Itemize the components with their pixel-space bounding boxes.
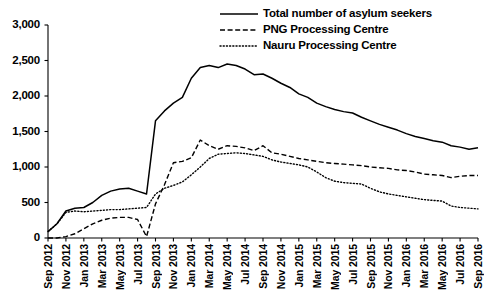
x-axis-label: Mar 2015 bbox=[311, 244, 323, 288]
x-axis-label: May 2015 bbox=[329, 244, 341, 290]
x-axis-label: May 2016 bbox=[436, 244, 448, 290]
chart-series-lines bbox=[48, 64, 478, 238]
x-axis-label: Sep 2013 bbox=[150, 244, 162, 289]
legend-item-label: Nauru Processing Centre bbox=[263, 39, 396, 51]
x-axis-label: Nov 2015 bbox=[382, 244, 394, 289]
y-axis-label: 500 bbox=[0, 197, 40, 208]
x-axis-label: Nov 2014 bbox=[275, 244, 287, 289]
x-axis-label: Sep 2016 bbox=[472, 244, 484, 289]
x-axis-label: Jul 2014 bbox=[239, 244, 251, 285]
y-axis-label: 1,000 bbox=[0, 161, 40, 172]
x-axis-label: Jan 2015 bbox=[293, 244, 305, 288]
x-axis-label: Nov 2013 bbox=[167, 244, 179, 289]
x-axis-label: Jan 2013 bbox=[78, 244, 90, 288]
x-axis-label: Mar 2016 bbox=[418, 244, 430, 288]
series-line-dashed bbox=[48, 140, 478, 238]
x-axis-label: Sep 2014 bbox=[257, 244, 269, 289]
y-axis-label: 2,500 bbox=[0, 55, 40, 66]
x-axis-label: Jul 2015 bbox=[347, 244, 359, 285]
y-axis-label: 1,500 bbox=[0, 126, 40, 137]
y-axis-label: 0 bbox=[0, 232, 40, 243]
x-axis-label: Mar 2014 bbox=[203, 244, 215, 288]
x-axis-label: Mar 2013 bbox=[96, 244, 108, 288]
y-axis-label: 2,000 bbox=[0, 90, 40, 101]
x-axis-label: Nov 2012 bbox=[60, 244, 72, 289]
x-axis-label: Sep 2012 bbox=[42, 244, 54, 289]
series-line-dotted bbox=[48, 153, 478, 232]
series-line-solid bbox=[48, 64, 478, 232]
x-axis-label: May 2013 bbox=[114, 244, 126, 290]
x-axis-label: Jul 2013 bbox=[132, 244, 144, 285]
legend-item-label: Total number of asylum seekers bbox=[263, 7, 432, 19]
x-axis-label: Jan 2016 bbox=[400, 244, 412, 288]
x-axis-label: Jul 2016 bbox=[454, 244, 466, 285]
x-axis-label: Jan 2014 bbox=[185, 244, 197, 288]
legend-item-label: PNG Processing Centre bbox=[263, 23, 389, 35]
x-axis-label: Sep 2015 bbox=[365, 244, 377, 289]
x-axis-label: May 2014 bbox=[221, 244, 233, 290]
line-chart: 05001,0001,5002,0002,5003,000 Sep 2012No… bbox=[0, 0, 484, 305]
legend-swatches bbox=[220, 14, 258, 46]
y-axis-label: 3,000 bbox=[0, 19, 40, 30]
